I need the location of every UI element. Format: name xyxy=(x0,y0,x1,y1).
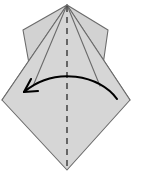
main-paper-shape xyxy=(2,5,130,170)
origami-diagram: Origami fold step diagram Kite-shaped fo… xyxy=(0,0,141,175)
fold-arrow-head-lower xyxy=(24,91,38,92)
origami-figure xyxy=(0,0,141,175)
